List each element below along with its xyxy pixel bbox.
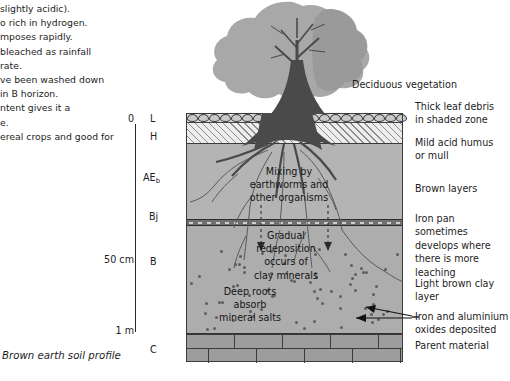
mineral-dot — [313, 320, 316, 323]
iron-pan-speck — [333, 222, 337, 224]
brick-line — [378, 334, 379, 348]
iron-pan-speck — [396, 222, 400, 224]
iron-pan-speck — [189, 222, 193, 224]
annotation-brown-layers: Brown layers — [415, 182, 477, 195]
tree-svg — [205, 0, 390, 120]
annotation-gradual-redeposition: Gradual redeposition occurs of clay mine… — [230, 229, 342, 282]
mineral-dot — [220, 250, 223, 253]
horizon-label-L: L — [150, 113, 155, 124]
annotation-light-brown-clay: Light brown clay layer — [415, 277, 494, 304]
mineral-dot — [371, 321, 374, 324]
soil-layer-H — [186, 122, 403, 144]
mineral-dot — [396, 253, 399, 256]
brick-line — [282, 334, 283, 348]
annotation-line: there is more — [415, 252, 510, 265]
iron-pan-speck — [207, 222, 211, 224]
mineral-dot — [365, 271, 368, 274]
mineral-dot — [339, 295, 342, 298]
iron-pan-speck — [216, 222, 220, 224]
brick-line — [186, 334, 403, 335]
soil-layer-Bj — [186, 219, 403, 226]
iron-pan-speck — [270, 222, 274, 224]
mineral-dot — [321, 302, 324, 305]
iron-pan-speck — [315, 222, 319, 224]
leaf-litter-glyph — [187, 114, 198, 122]
annotation-line: earthworms and — [226, 178, 352, 191]
mineral-dot — [375, 285, 378, 288]
mineral-dot — [370, 313, 373, 316]
mineral-dot — [372, 303, 375, 306]
left-text-line: rate. — [0, 59, 128, 73]
annotation-parent-material: Parent material — [415, 339, 489, 352]
mineral-dot — [386, 310, 389, 313]
mineral-dot — [319, 288, 322, 291]
brick-line — [352, 348, 353, 363]
mineral-dot — [360, 267, 363, 270]
iron-pan-speck — [351, 222, 355, 224]
annotation-line: mineral salts — [196, 311, 304, 324]
brick-line — [186, 348, 403, 349]
left-text-line: ereal crops and good for — [0, 130, 128, 144]
iron-pan-speck — [306, 222, 310, 224]
figure-caption: Brown earth soil profile — [2, 350, 121, 361]
annotation-line: layer — [415, 290, 494, 303]
annotation-deciduous-vegetation: Deciduous vegetation — [352, 78, 457, 91]
annotation-line: Parent material — [415, 339, 489, 352]
mineral-dot — [313, 290, 316, 293]
iron-pan-speck — [243, 222, 247, 224]
left-text-line: in B horizon. — [0, 87, 128, 101]
iron-pan-speck — [378, 222, 382, 224]
iron-pan-speck — [288, 222, 292, 224]
annotation-line: Deep roots — [196, 285, 304, 298]
mineral-dot — [206, 328, 209, 331]
annotation-thick-leaf-debris: Thick leaf debris in shaded zone — [415, 100, 494, 127]
annotation-deep-roots: Deep roots absorb mineral salts — [196, 285, 304, 325]
scale-label-50cm: 50 cm — [86, 254, 134, 265]
left-text-line: bleached as rainfall — [0, 45, 128, 59]
horizon-label-AEb-main: AE — [143, 172, 156, 183]
annotation-iron-aluminium-oxides: Iron and aluminium oxides deposited — [415, 310, 508, 337]
iron-pan-speck — [360, 222, 364, 224]
horizon-label-C: C — [150, 344, 157, 355]
iron-pan-speck — [387, 222, 391, 224]
left-text-line: o rich in hydrogen. — [0, 16, 128, 30]
mineral-dot — [198, 275, 201, 278]
brick-line — [234, 334, 235, 348]
soil-profile-diagram: slightly acidic). o rich in hydrogen. mp… — [0, 0, 510, 381]
mineral-dot — [190, 282, 193, 285]
left-text-line: ntent gives it a — [0, 101, 128, 115]
mineral-dot — [339, 307, 342, 310]
iron-pan-speck — [297, 222, 301, 224]
left-text-line: mposes rapidly. — [0, 30, 128, 44]
horizon-label-Bj: Bj — [149, 211, 158, 222]
iron-pan-speck — [198, 222, 202, 224]
annotation-line: redeposition — [230, 242, 342, 255]
annotation-line: Gradual — [230, 229, 342, 242]
iron-pan-speck — [342, 222, 346, 224]
left-body-text: slightly acidic). o rich in hydrogen. mp… — [0, 2, 128, 144]
annotation-line: oxides deposited — [415, 323, 508, 336]
annotation-line: or mull — [415, 149, 493, 162]
mineral-dot — [349, 283, 352, 286]
brick-line — [256, 348, 257, 363]
mineral-dot — [316, 297, 319, 300]
horizon-label-AEb-subscript: b — [156, 177, 160, 185]
annotation-mixing-by-earthworms: Mixing by earthworms and other organisms — [226, 165, 352, 205]
soil-layer-C — [186, 333, 403, 362]
annotation-mild-acid-humus: Mild acid humus or mull — [415, 136, 493, 163]
scale-label-1m: 1 m — [86, 325, 134, 336]
annotation-line: Thick leaf debris — [415, 100, 494, 113]
annotation-line: Iron and aluminium — [415, 310, 508, 323]
deciduous-tree — [205, 0, 390, 120]
annotation-line: develops where — [415, 239, 510, 252]
mineral-dot — [344, 253, 347, 256]
iron-pan-speck — [234, 222, 238, 224]
leaf-litter-glyph — [396, 114, 407, 122]
annotation-line: Brown layers — [415, 182, 477, 195]
mineral-dot — [213, 327, 216, 330]
annotation-line: Iron pan sometimes — [415, 212, 510, 239]
brick-line — [400, 348, 401, 363]
scale-label-0: 0 — [116, 113, 134, 124]
horizon-label-AEb: AEb — [143, 172, 160, 185]
annotation-line: absorb — [196, 298, 304, 311]
